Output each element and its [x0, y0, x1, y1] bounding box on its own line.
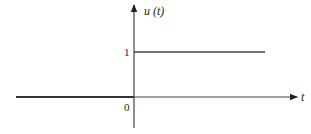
y-axis-label: u (t)	[144, 4, 164, 18]
step-level-label: 1	[124, 46, 130, 58]
origin-label: 0	[124, 101, 130, 113]
unit-step-plot: u (t) t 0 1	[0, 0, 311, 134]
x-axis-label: t	[301, 90, 305, 104]
